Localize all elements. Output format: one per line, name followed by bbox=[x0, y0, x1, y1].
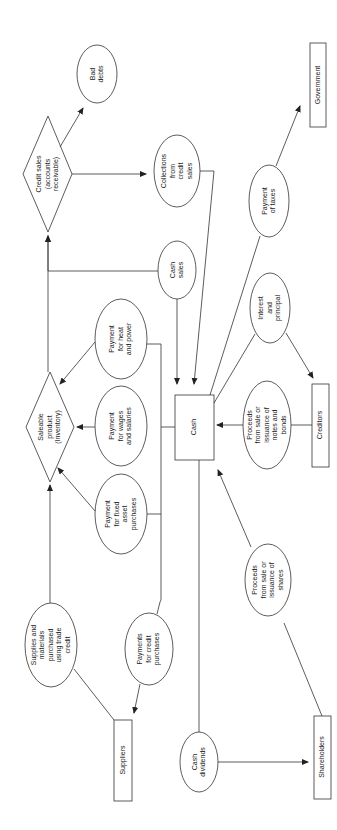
edge-cash-to-interest bbox=[214, 334, 255, 403]
edge-cash-to-taxes bbox=[210, 236, 260, 395]
node-cash-dividends bbox=[180, 732, 218, 792]
edge-shares-to-cash bbox=[218, 470, 251, 547]
node-credit-sales bbox=[23, 116, 72, 232]
edge-collections-to-cash bbox=[194, 171, 214, 384]
node-shareholders bbox=[314, 716, 331, 799]
edge-shareholders-to-shares bbox=[284, 623, 322, 716]
node-heat-power bbox=[95, 299, 147, 379]
node-proceeds-shares bbox=[245, 544, 291, 616]
node-credit-purchases bbox=[125, 613, 173, 685]
edge-credit-to-baddebts bbox=[60, 108, 83, 147]
node-bad-debts bbox=[77, 45, 117, 103]
edge-interest-to-creditors bbox=[286, 333, 313, 378]
node-supplies bbox=[25, 603, 77, 687]
node-collections bbox=[154, 135, 200, 207]
node-proceeds-notes bbox=[243, 381, 291, 469]
node-fixed-asset bbox=[95, 474, 147, 554]
node-cash bbox=[175, 395, 214, 460]
cash-flow-diagram bbox=[0, 0, 337, 830]
node-saleable-product bbox=[26, 372, 74, 482]
edge-cashsales-to-credit bbox=[48, 236, 158, 271]
node-suppliers bbox=[114, 720, 132, 801]
node-government bbox=[310, 43, 326, 127]
edge-taxes-to-government bbox=[276, 106, 300, 166]
node-wages-salaries bbox=[95, 386, 147, 466]
node-interest-principal bbox=[250, 273, 290, 343]
edge-bus-to-creditpurchases bbox=[157, 600, 161, 614]
edge-heat-to-inventory bbox=[60, 342, 95, 384]
edge-bus bbox=[147, 344, 161, 600]
node-creditors bbox=[312, 384, 329, 467]
node-cash-sales bbox=[158, 241, 196, 299]
edge-suppliers-to-supplies bbox=[74, 669, 114, 720]
edge-creditpurchases-to-suppliers bbox=[134, 684, 140, 713]
node-payment-taxes bbox=[249, 165, 289, 237]
edge-fixed-to-inventory bbox=[58, 468, 95, 511]
